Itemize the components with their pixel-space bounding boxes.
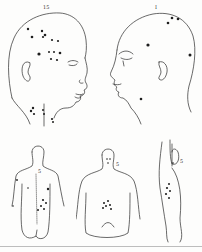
torso-front-drawing [76, 145, 142, 246]
head-right-profile-drawing [0, 0, 101, 130]
head-left-profile-figure: I [101, 0, 202, 130]
figure-label: 5 [38, 168, 41, 174]
head-left-profile-drawing [101, 0, 202, 130]
torso-back-figure: 5 [10, 140, 70, 246]
illustration-plate: 15 [0, 0, 202, 252]
torso-front-figure: 5 [76, 145, 142, 246]
torso-side-figure: 5 [150, 138, 202, 246]
bottom-rule [0, 246, 202, 247]
figure-label: 15 [43, 4, 49, 10]
figure-label: I [155, 4, 157, 10]
torso-side-drawing [150, 138, 202, 246]
figure-label: 5 [180, 158, 183, 164]
torso-back-drawing [10, 140, 70, 246]
figure-label: 5 [116, 161, 119, 167]
head-right-profile-figure: 15 [0, 0, 101, 130]
